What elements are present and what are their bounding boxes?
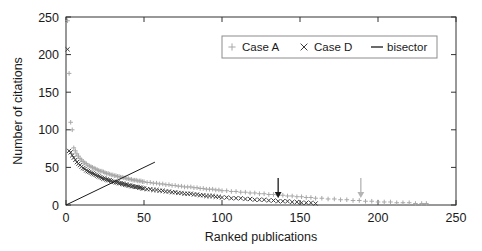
marker-cross: [239, 196, 243, 200]
citation-rank-chart: 050100150200250050100150200250Ranked pub…: [0, 0, 482, 251]
x-tick-label: 50: [137, 211, 151, 225]
marker-plus: [220, 188, 225, 193]
marker-cross: [271, 198, 275, 202]
legend-label: Case A: [242, 41, 279, 53]
legend-label: Case D: [314, 41, 352, 53]
marker-plus: [290, 194, 295, 199]
marker-plus: [299, 194, 304, 199]
marker-plus: [248, 191, 253, 196]
marker-plus: [234, 189, 239, 194]
marker-plus: [388, 200, 393, 205]
marker-plus: [369, 199, 374, 204]
marker-cross: [243, 197, 247, 201]
legend: Case ACase Dbisector: [222, 36, 437, 58]
marker-plus: [229, 189, 234, 194]
marker-cross: [234, 196, 238, 200]
marker-plus: [332, 197, 337, 202]
y-tick-label: 50: [45, 161, 59, 175]
marker-plus: [262, 191, 267, 196]
y-tick-label: 250: [38, 11, 59, 25]
y-axis-title: Number of citations: [11, 57, 25, 165]
marker-plus: [320, 196, 325, 201]
marker-plus: [304, 195, 309, 200]
marker-plus: [345, 197, 350, 202]
x-axis-title: Ranked publications: [205, 230, 318, 244]
marker-plus: [326, 197, 331, 202]
marker-plus: [167, 182, 172, 187]
marker-plus: [401, 200, 406, 205]
marker-cross: [257, 198, 261, 202]
marker-plus: [243, 190, 248, 195]
marker-cross: [290, 200, 294, 204]
marker-plus: [70, 128, 75, 133]
marker-cross: [267, 198, 271, 202]
marker-plus: [210, 187, 215, 192]
marker-cross: [253, 198, 257, 202]
marker-plus: [407, 200, 412, 205]
marker-plus: [394, 200, 399, 205]
series-case-d: [65, 47, 317, 205]
marker-plus: [376, 200, 381, 205]
chart-canvas: 050100150200250050100150200250Ranked pub…: [0, 0, 482, 251]
marker-plus: [195, 185, 200, 190]
x-tick-label: 150: [290, 211, 311, 225]
marker-plus: [338, 197, 343, 202]
marker-cross: [225, 195, 229, 199]
marker-cross: [229, 196, 233, 200]
marker-plus: [351, 198, 356, 203]
arrow-head: [357, 192, 364, 198]
marker-plus: [281, 193, 286, 198]
marker-plus: [309, 195, 314, 200]
y-tick-label: 0: [52, 199, 59, 213]
marker-plus: [252, 191, 257, 196]
y-tick-label: 200: [38, 48, 59, 62]
marker-plus: [295, 194, 300, 199]
marker-cross: [281, 199, 285, 203]
marker-cross: [285, 199, 289, 203]
marker-plus: [148, 180, 153, 185]
marker-cross: [309, 201, 313, 205]
x-tick-label: 250: [446, 211, 467, 225]
marker-plus: [382, 200, 387, 205]
marker-plus: [357, 198, 362, 203]
marker-plus: [224, 188, 229, 193]
marker-plus: [267, 192, 272, 197]
marker-cross: [262, 198, 266, 202]
marker-plus: [68, 120, 73, 125]
x-tick-label: 100: [212, 211, 233, 225]
marker-plus: [257, 191, 262, 196]
legend-label: bisector: [387, 41, 427, 53]
marker-plus: [217, 188, 222, 193]
marker-plus: [179, 184, 184, 189]
marker-plus: [201, 186, 206, 191]
marker-plus: [173, 183, 178, 188]
marker-plus: [238, 190, 243, 195]
marker-plus: [271, 192, 276, 197]
marker-plus: [285, 194, 290, 199]
marker-cross: [276, 199, 280, 203]
x-tick-label: 200: [368, 211, 389, 225]
y-tick-label: 100: [38, 123, 59, 137]
marker-cross: [248, 197, 252, 201]
marker-cross: [220, 195, 224, 199]
y-tick-label: 150: [38, 86, 59, 100]
marker-cross: [304, 201, 308, 205]
marker-plus: [67, 71, 72, 76]
arrow-case-a: [357, 178, 364, 198]
marker-plus: [313, 196, 318, 201]
marker-plus: [189, 185, 194, 190]
marker-plus: [160, 182, 165, 187]
marker-plus: [363, 199, 368, 204]
x-tick-label: 0: [63, 211, 70, 225]
marker-plus: [154, 181, 159, 186]
marker-cross: [295, 200, 299, 204]
